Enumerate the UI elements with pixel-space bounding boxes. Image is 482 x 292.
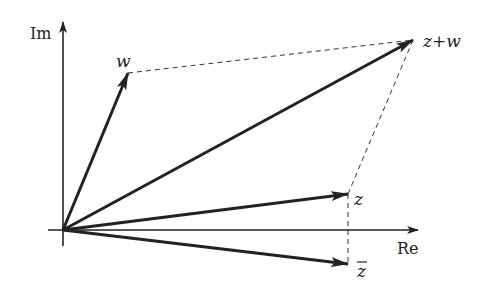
vector-w	[63, 73, 128, 230]
dashed-z-to-sum	[348, 40, 413, 194]
vector-z-conjugate	[63, 230, 348, 264]
vector-z	[63, 194, 348, 230]
label-w: w	[116, 51, 131, 71]
label-z-conjugate: z	[356, 261, 367, 281]
real-axis-label: Re	[397, 239, 419, 258]
complex-plane-diagram: Im Re w z+w z z	[0, 0, 482, 292]
label-z-plus-w: z+w	[422, 31, 461, 51]
imaginary-axis-label: Im	[30, 24, 52, 43]
label-z: z	[353, 189, 364, 209]
dashed-w-to-sum	[128, 40, 413, 73]
